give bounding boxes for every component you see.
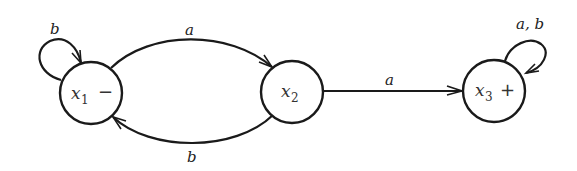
transition-x1-x2: a — [111, 21, 272, 68]
transition-x2-x1: b — [113, 115, 273, 166]
state-name: x — [71, 83, 81, 103]
state-name: x — [475, 80, 485, 100]
state-subscript: 3 — [485, 90, 493, 104]
final-marker: + — [500, 79, 515, 100]
state-circle — [463, 60, 525, 122]
transition-label: b — [50, 20, 60, 38]
state-x1: x 1 − — [60, 62, 122, 124]
state-x3: x 3 + — [463, 60, 525, 122]
transition-label: b — [187, 148, 197, 166]
state-subscript: 2 — [291, 91, 299, 105]
state-x2: x 2 — [261, 61, 323, 123]
arc-edge — [113, 115, 273, 143]
transition-label: a, b — [516, 15, 544, 33]
transition-x2-x3: a — [324, 71, 462, 95]
automaton-diagram: b a b a a, b x 1 − x 2 x 3 + — [0, 0, 577, 171]
state-subscript: 1 — [81, 93, 89, 107]
start-marker: − — [98, 81, 113, 102]
state-name: x — [281, 81, 291, 101]
transition-label: a — [185, 21, 194, 39]
transition-label: a — [385, 71, 394, 89]
arc-edge — [111, 39, 272, 68]
